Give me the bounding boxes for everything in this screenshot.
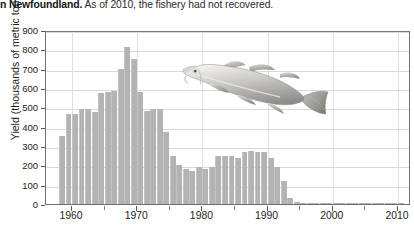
- x-tick-mark: [267, 206, 268, 211]
- bar: [326, 203, 332, 204]
- y-tick-label: 500: [4, 103, 38, 113]
- bar: [85, 109, 91, 204]
- y-tick-label: 0: [4, 200, 38, 210]
- bar: [333, 203, 339, 204]
- y-tick-mark: [41, 50, 45, 51]
- bar: [281, 181, 287, 204]
- bar: [215, 156, 221, 204]
- bar: [294, 202, 300, 204]
- x-tick-label: 2010: [377, 210, 414, 221]
- bar: [163, 132, 169, 205]
- x-tick-mark-minor: [299, 206, 300, 210]
- bar: [92, 112, 98, 204]
- x-tick-mark-minor: [234, 206, 235, 210]
- y-tick-label: 600: [4, 84, 38, 94]
- x-tick-label: 2000: [312, 210, 352, 221]
- y-tick-mark: [41, 89, 45, 90]
- bar: [137, 92, 143, 204]
- y-tick-mark: [41, 128, 45, 129]
- x-tick-mark-minor: [169, 206, 170, 210]
- y-tick-mark: [41, 166, 45, 167]
- y-tick-label: 700: [4, 65, 38, 75]
- bar: [59, 136, 65, 204]
- bar: [111, 91, 117, 204]
- bar: [124, 47, 130, 204]
- bar: [346, 203, 352, 204]
- bar: [144, 111, 150, 204]
- bar: [176, 165, 182, 204]
- x-tick-mark: [201, 206, 202, 211]
- bar: [242, 152, 248, 204]
- bar: [385, 203, 391, 204]
- bar: [255, 152, 261, 204]
- bar: [66, 114, 72, 204]
- bar: [300, 203, 306, 204]
- bar: [398, 203, 404, 204]
- x-tick-mark: [71, 206, 72, 211]
- bar: [183, 169, 189, 204]
- y-tick-label: 200: [4, 161, 38, 171]
- bar: [313, 203, 319, 204]
- bar: [378, 203, 384, 204]
- bar: [189, 171, 195, 204]
- figure-caption: n Newfoundland. As of 2010, the fishery …: [0, 0, 414, 13]
- x-tick-mark-minor: [364, 206, 365, 210]
- bar: [170, 156, 176, 204]
- bar: [359, 203, 365, 204]
- bar: [150, 109, 156, 204]
- bar: [157, 109, 163, 204]
- caption-rest: As of 2010, the fishery had not recovere…: [82, 0, 273, 10]
- x-tick-label: 1960: [51, 210, 91, 221]
- bar: [79, 109, 85, 204]
- bar: [261, 152, 267, 204]
- y-tick-mark: [41, 70, 45, 71]
- bar: [274, 167, 280, 204]
- x-tick-mark: [136, 206, 137, 211]
- x-tick-label: 1990: [247, 210, 287, 221]
- bar: [196, 167, 202, 204]
- plot-area: [45, 31, 410, 205]
- bar: [268, 158, 274, 204]
- x-tick-mark: [397, 206, 398, 211]
- y-tick-label: 300: [4, 142, 38, 152]
- y-tick-mark: [41, 147, 45, 148]
- cod-fishery-yield-figure: n Newfoundland. As of 2010, the fishery …: [0, 0, 414, 229]
- y-tick-label: 400: [4, 123, 38, 133]
- bar: [365, 203, 371, 204]
- y-tick-label: 100: [4, 181, 38, 191]
- y-tick-mark: [41, 31, 45, 32]
- y-tick-mark: [41, 108, 45, 109]
- y-tick-mark: [41, 205, 45, 206]
- bar: [320, 203, 326, 204]
- y-tick-mark: [41, 186, 45, 187]
- bar: [72, 114, 78, 204]
- bar: [339, 203, 345, 204]
- bar: [118, 69, 124, 204]
- bar: [235, 158, 241, 204]
- bar: [105, 92, 111, 204]
- bar: [248, 151, 254, 204]
- x-tick-mark-minor: [104, 206, 105, 210]
- x-tick-label: 1980: [181, 210, 221, 221]
- bar-series: [46, 32, 409, 204]
- bar: [307, 203, 313, 204]
- bar: [391, 203, 397, 204]
- x-tick-mark: [332, 206, 333, 211]
- bar: [202, 169, 208, 204]
- y-tick-label: 800: [4, 45, 38, 55]
- bar: [222, 156, 228, 204]
- bar: [287, 198, 293, 204]
- bar: [229, 156, 235, 204]
- bar: [352, 203, 358, 204]
- y-tick-label: 900: [4, 26, 38, 36]
- bar: [98, 93, 104, 204]
- bar: [131, 59, 137, 204]
- x-tick-label: 1970: [116, 210, 156, 221]
- bar: [372, 203, 378, 204]
- bar: [209, 167, 215, 204]
